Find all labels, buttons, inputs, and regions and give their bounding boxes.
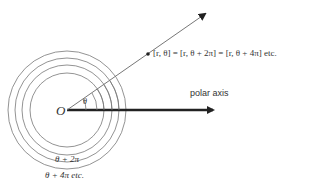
- point-equivalence-label: [r, θ] = [r, θ + 2π] = [r, θ + 4π] etc.: [153, 48, 277, 58]
- theta-plus-4pi-label: θ + 4π etc.: [45, 170, 84, 180]
- polar-axis-label: polar axis: [190, 88, 229, 98]
- origin-label: O: [56, 103, 65, 119]
- theta-plus-2pi-label: θ + 2π: [55, 154, 79, 164]
- point-marker: [146, 52, 150, 56]
- angle-label: θ: [83, 97, 87, 106]
- polar-diagram: [0, 0, 312, 190]
